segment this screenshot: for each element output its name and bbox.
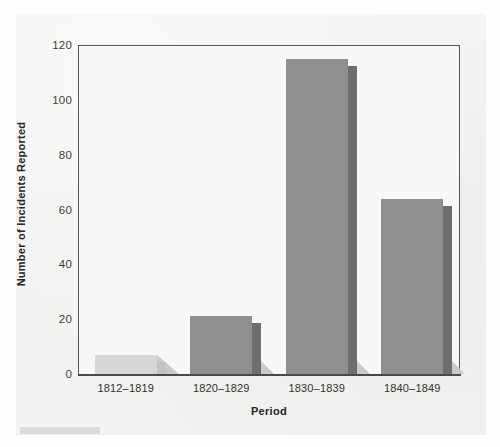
x-tick-label: 1820–1829 xyxy=(193,382,249,394)
bar-side-face xyxy=(157,362,166,374)
x-tick-label: 1840–1849 xyxy=(384,382,440,394)
y-tick-label: 80 xyxy=(40,149,72,161)
x-tick-label: 1830–1839 xyxy=(289,382,345,394)
bar-front-face xyxy=(286,59,348,374)
y-tick-label: 0 xyxy=(40,368,72,380)
bar-series xyxy=(78,45,460,374)
figure-page: 020406080100120 Number of Incidents Repo… xyxy=(0,0,500,447)
bar-chart: 020406080100120 Number of Incidents Repo… xyxy=(0,0,500,447)
x-tick-label: 1812–1819 xyxy=(98,382,154,394)
y-tick-label: 100 xyxy=(40,94,72,106)
y-tick-label: 120 xyxy=(40,39,72,51)
bar-front-face xyxy=(95,355,157,374)
bar-front-face xyxy=(381,199,443,374)
y-axis-title: Number of Incidents Reported xyxy=(15,99,27,309)
y-tick-label: 40 xyxy=(40,258,72,270)
bar xyxy=(190,316,252,374)
x-axis-baseline xyxy=(78,374,461,376)
bar-front-face xyxy=(190,316,252,374)
bar xyxy=(95,355,157,374)
y-tick-label: 20 xyxy=(40,313,72,325)
bar-side-face xyxy=(443,206,452,374)
scan-artifact xyxy=(20,427,100,434)
x-axis-ticks: 1812–18191820–18291830–18391840–1849 xyxy=(78,382,460,402)
x-axis-title: Period xyxy=(78,405,460,417)
bar xyxy=(381,199,443,374)
bar-side-face xyxy=(252,323,261,374)
bar-side-face xyxy=(348,66,357,374)
bar xyxy=(286,59,348,374)
y-tick-label: 60 xyxy=(40,204,72,216)
y-axis-ticks: 020406080100120 xyxy=(40,0,72,447)
